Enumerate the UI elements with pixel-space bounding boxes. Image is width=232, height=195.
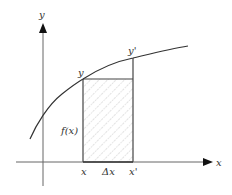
x-end-label: x' [129,166,137,177]
y-axis-label: y [38,9,45,20]
y-axis-arrow-icon [39,23,47,33]
diagram-canvas: y x y y' f(x) x Δx x' [0,0,232,195]
delta-x-label: Δx [101,166,115,177]
x-axis-arrow-icon [203,158,213,166]
height-fx-label: f(x) [60,125,78,136]
x-start-label: x [81,166,87,177]
x-axis-label: x [216,157,222,168]
hatched-area-rectangle [83,58,133,162]
point-y-label: y [77,67,84,78]
point-y-prime-label: y' [127,45,136,56]
